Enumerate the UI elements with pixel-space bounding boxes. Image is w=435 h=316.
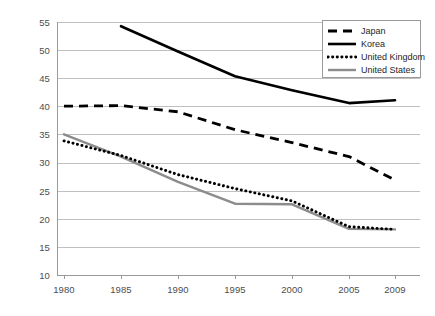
legend-item-united-states: United States xyxy=(323,63,420,76)
dashed-black-line-swatch xyxy=(327,26,357,36)
caption-fragment xyxy=(4,308,204,316)
solid-gray-line-swatch xyxy=(327,65,357,75)
chart-legend: Japan Korea United Kingdom United States xyxy=(322,20,421,78)
solid-black-line-swatch xyxy=(327,39,357,49)
legend-item-united-kingdom: United Kingdom xyxy=(323,50,420,63)
series-line-united-kingdom xyxy=(64,141,395,230)
legend-item-korea: Korea xyxy=(323,37,420,50)
line-chart: 55 50 45 40 35 30 25 20 15 10 1980 1985 … xyxy=(0,0,435,316)
dotted-black-line-swatch xyxy=(327,52,357,62)
series-line-united-states xyxy=(64,134,395,229)
legend-label-united-kingdom: United Kingdom xyxy=(361,52,425,62)
legend-label-united-states: United States xyxy=(361,65,415,75)
legend-label-japan: Japan xyxy=(361,26,386,36)
series-line-japan xyxy=(64,106,395,181)
legend-item-japan: Japan xyxy=(323,24,420,37)
legend-label-korea: Korea xyxy=(361,39,385,49)
